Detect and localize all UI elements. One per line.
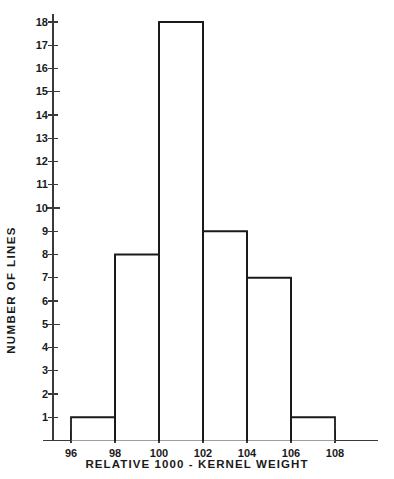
x-axis-tick-label: 96 bbox=[53, 447, 89, 459]
x-axis-tick-labels: 9698100102104106108 bbox=[0, 0, 394, 479]
x-axis-tick-label: 108 bbox=[317, 447, 353, 459]
x-axis-tick-label: 104 bbox=[229, 447, 265, 459]
histogram-figure: 123456789101112131415161718 969810010210… bbox=[0, 0, 394, 479]
x-axis-tick-label: 100 bbox=[141, 447, 177, 459]
y-axis-title-text: NUMBER OF LINES bbox=[5, 226, 17, 354]
x-axis-tick-label: 102 bbox=[185, 447, 221, 459]
x-axis-title: RELATIVE 1000 - KERNEL WEIGHT bbox=[0, 458, 394, 470]
y-axis-title: NUMBER OF LINES bbox=[0, 200, 22, 380]
x-axis-tick-label: 106 bbox=[273, 447, 309, 459]
x-axis-tick-label: 98 bbox=[97, 447, 133, 459]
